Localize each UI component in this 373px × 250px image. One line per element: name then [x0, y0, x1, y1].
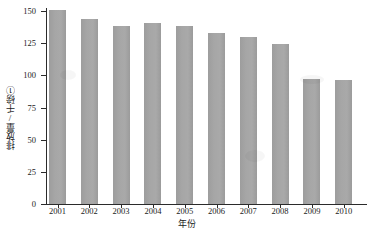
- bar-2002: [81, 19, 98, 204]
- bar-2003: [113, 26, 130, 204]
- x-tick-label-2007: 2007: [231, 207, 265, 216]
- x-tick-label-2001: 2001: [41, 207, 75, 216]
- bar-2007: [240, 37, 257, 204]
- bar-2009: [303, 79, 320, 204]
- bar-2010: [335, 80, 352, 204]
- x-tick-label-2008: 2008: [263, 207, 297, 216]
- x-tick-label-2005: 2005: [168, 207, 202, 216]
- x-axis-title: 年份: [0, 219, 373, 230]
- scan-artifact: [245, 150, 265, 162]
- x-tick-label-2010: 2010: [327, 207, 361, 216]
- x-tick-label-2004: 2004: [136, 207, 170, 216]
- x-tick-label-2002: 2002: [72, 207, 106, 216]
- x-tick-label-2009: 2009: [295, 207, 329, 216]
- x-tick-label-2006: 2006: [200, 207, 234, 216]
- scan-artifact: [300, 75, 324, 84]
- bar-2005: [176, 26, 193, 204]
- bar-2004: [144, 23, 161, 204]
- scan-artifact: [60, 70, 76, 80]
- bar-2001: [49, 10, 66, 204]
- bar-chart: 排放量/千磅① 0255075100125150 200120022003200…: [0, 0, 373, 250]
- bar-2008: [272, 44, 289, 204]
- x-tick-label-2003: 2003: [104, 207, 138, 216]
- bar-2006: [208, 33, 225, 204]
